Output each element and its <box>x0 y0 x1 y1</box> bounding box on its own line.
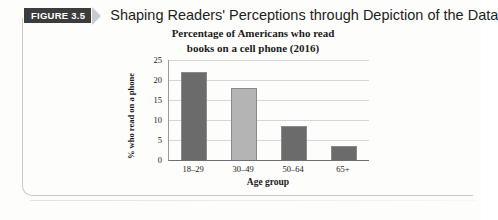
y-axis-ticks: 2520151050 <box>140 60 162 160</box>
bar <box>281 126 307 160</box>
chevron-right-icon <box>92 7 101 25</box>
bar <box>331 146 357 160</box>
chart-title-line-2: books on a cell phone (2016) <box>128 41 378 56</box>
y-tick-label: 10 <box>140 116 162 125</box>
figure-header: FIGURE 3.5 Shaping Readers' Perceptions … <box>24 6 498 25</box>
plot-axes <box>168 60 369 161</box>
x-tick-label: 30–49 <box>218 163 268 175</box>
chart-title: Percentage of Americans who read books o… <box>128 26 378 55</box>
bar <box>231 88 257 160</box>
x-axis-label: Age group <box>168 178 368 188</box>
figure-caption: Shaping Readers' Perceptions through Dep… <box>110 8 498 23</box>
y-tick-label: 20 <box>140 76 162 85</box>
bar <box>181 72 207 160</box>
y-axis-label: % who read on a phone <box>125 60 137 172</box>
y-tick-label: 15 <box>140 96 162 105</box>
y-tick-label: 0 <box>140 156 162 165</box>
y-tick-label: 25 <box>140 56 162 65</box>
figure-frame-shadow <box>30 200 476 201</box>
plot-area: % who read on a phone 2520151050 18–2930… <box>128 60 378 172</box>
bar-chart: Percentage of Americans who read books o… <box>128 26 378 196</box>
x-tick-label: 50–64 <box>268 163 318 175</box>
gridline <box>169 60 369 61</box>
x-tick-label: 18–29 <box>168 163 218 175</box>
y-tick-label: 5 <box>140 136 162 145</box>
chart-title-line-1: Percentage of Americans who read <box>128 26 378 41</box>
x-axis-ticks: 18–2930–4950–6465+ <box>168 163 368 175</box>
x-tick-label: 65+ <box>318 163 368 175</box>
figure-number-badge: FIGURE 3.5 <box>24 8 91 24</box>
